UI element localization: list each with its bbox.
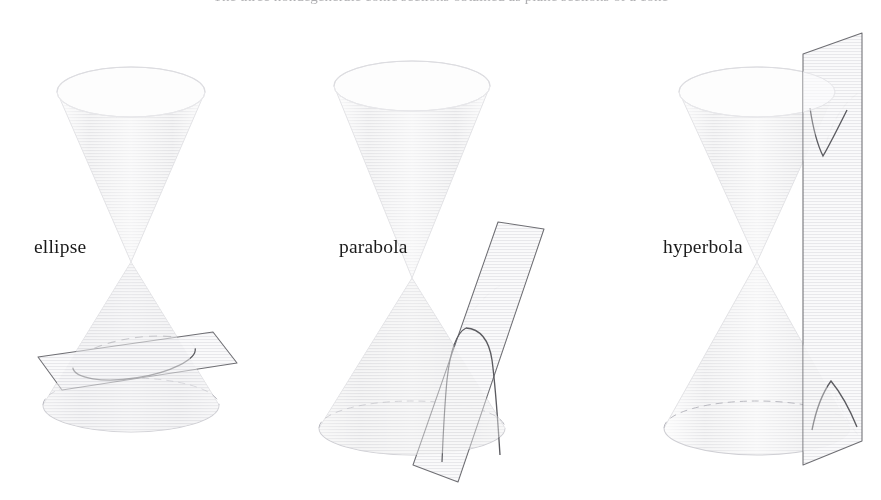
conic-sections-figure: The three nondegenerate conic sections o… (0, 0, 881, 500)
panel-hyperbola: hyperbola (663, 33, 862, 465)
label-parabola: parabola (339, 236, 408, 257)
label-hyperbola: hyperbola (663, 236, 743, 257)
cone-top-rim-parabola (334, 61, 490, 111)
cone-top-rim-ellipse (57, 67, 205, 117)
clipped-header-text: The three nondegenerate conic sections o… (0, 0, 881, 4)
figure-canvas: ellipse (0, 0, 881, 500)
label-ellipse: ellipse (34, 236, 86, 257)
